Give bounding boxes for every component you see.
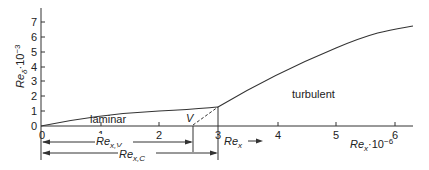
y-ticks: [41, 22, 45, 111]
y-tick-3: 3: [31, 75, 37, 87]
laminar-label: laminar: [90, 113, 126, 125]
virtual-origin-label: V: [186, 112, 195, 124]
rexv-arrow-right-icon: [185, 140, 193, 145]
y-axis-label: Reδ·10−3: [13, 44, 29, 88]
boundary-layer-chart: 0 1 2 3 4 5 6 7 0 1 2 3 4 5 6 laminar tu…: [0, 0, 429, 170]
rex-direction-label: Rex: [224, 135, 243, 150]
y-tick-labels: 0 1 2 3 4 5 6 7: [31, 16, 37, 132]
rex-arrow-head-icon: [256, 139, 263, 144]
y-tick-4: 4: [31, 61, 37, 73]
rexc-arrow-right-icon: [210, 151, 218, 156]
virtual-origin-dashed-line: [193, 107, 218, 125]
x-tick-0: 0: [39, 129, 45, 141]
y-tick-1: 1: [31, 105, 37, 117]
x-ticks: [101, 122, 395, 126]
x-tick-4: 4: [275, 129, 281, 141]
x-tick-2: 2: [156, 129, 162, 141]
x-tick-5: 5: [333, 129, 339, 141]
x-axis-label: Rex·10−6: [350, 137, 394, 153]
y-tick-2: 2: [31, 90, 37, 102]
turbulent-label: turbulent: [292, 88, 335, 100]
rexc-arrow-left-icon: [42, 151, 50, 156]
y-tick-7: 7: [31, 16, 37, 28]
y-tick-6: 6: [31, 31, 37, 43]
y-tick-5: 5: [31, 46, 37, 58]
y-tick-0: 0: [31, 120, 37, 132]
